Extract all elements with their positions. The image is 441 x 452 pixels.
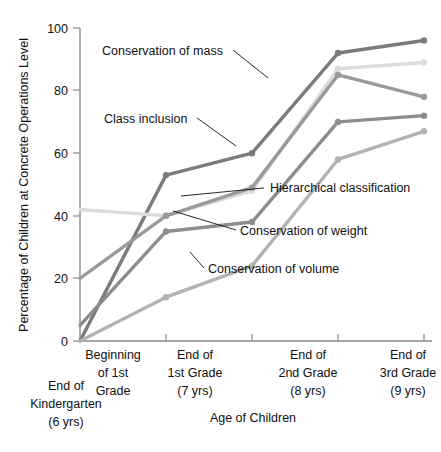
y-tick-label-100: 100 [47, 22, 68, 36]
data-point [335, 72, 341, 78]
chart-figure: 100 80 60 40 20 0 Percentage of Children… [0, 0, 441, 452]
data-point [335, 50, 341, 56]
x-axis-title: Age of Children [210, 411, 296, 425]
x-label-k0-line3: (6 yrs) [48, 415, 83, 429]
x-label-end-of-3rd-grade: End of 3rd Grade (9 yrs) [380, 348, 436, 398]
x-label-k3-line1: End of [290, 348, 327, 362]
x-label-k0-line1: End of [48, 379, 85, 393]
data-point [335, 65, 341, 71]
annotation-hierarchical-classification: Hierarchical classification [270, 181, 410, 195]
x-label-k4-line3: (9 yrs) [390, 384, 425, 398]
line-chart-svg: 100 80 60 40 20 0 Percentage of Children… [0, 0, 441, 452]
data-point [421, 128, 427, 134]
data-point [421, 37, 427, 43]
x-label-k4-line2: 3rd Grade [380, 366, 436, 380]
x-label-k2-line1: End of [177, 348, 214, 362]
annotation-class-inclusion: Class inclusion [104, 112, 187, 126]
annotation-labels: Conservation of mass Class inclusion Hie… [102, 44, 410, 276]
series-hierarchical-classification [80, 72, 427, 279]
x-label-k2-line3: (7 yrs) [177, 384, 212, 398]
x-label-beginning-of-1st-grade: Beginning of 1st Grade [85, 348, 141, 398]
y-axis-title: Percentage of Children at Concrete Opera… [17, 38, 31, 332]
annotation-conservation-of-volume: Conservation of volume [208, 262, 339, 276]
x-label-k1-line3: Grade [96, 384, 131, 398]
x-label-end-of-kindergarten: End of Kindergarten (6 yrs) [30, 379, 102, 429]
annotation-conservation-of-mass: Conservation of mass [102, 44, 223, 58]
annotation-conservation-of-weight: Conservation of weight [240, 224, 368, 238]
y-tick-label-80: 80 [54, 84, 68, 98]
leader-volume [190, 252, 204, 268]
y-tick-label-40: 40 [54, 210, 68, 224]
data-point [163, 213, 169, 219]
data-point [421, 94, 427, 100]
data-point [249, 184, 255, 190]
x-label-k2-line2: 1st Grade [168, 366, 223, 380]
x-label-k3-line2: 2nd Grade [278, 366, 337, 380]
x-label-k4-line1: End of [390, 348, 427, 362]
data-point [335, 156, 341, 162]
leader-mass [233, 50, 268, 78]
data-point [421, 59, 427, 65]
x-label-end-of-2nd-grade: End of 2nd Grade (8 yrs) [278, 348, 337, 398]
y-tick-label-60: 60 [54, 147, 68, 161]
y-tick-labels: 100 80 60 40 20 0 [47, 22, 68, 349]
x-label-k1-line2: of 1st [98, 366, 129, 380]
data-point [163, 172, 169, 178]
y-tick-label-20: 20 [54, 272, 68, 286]
y-tick-label-0: 0 [61, 335, 68, 349]
series-line [80, 75, 424, 278]
x-label-k3-line3: (8 yrs) [290, 384, 325, 398]
x-label-end-of-1st-grade: End of 1st Grade (7 yrs) [168, 348, 223, 398]
data-point [163, 294, 169, 300]
leader-class-inclusion [197, 118, 236, 146]
data-point [249, 150, 255, 156]
x-label-k1-line1: Beginning [85, 348, 141, 362]
data-point [421, 112, 427, 118]
x-label-k0-line2: Kindergarten [30, 397, 102, 411]
data-point [163, 228, 169, 234]
series-conservation-of-weight [80, 112, 427, 325]
data-point [335, 119, 341, 125]
